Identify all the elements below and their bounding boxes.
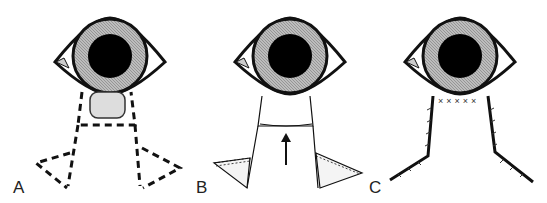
left-triangle bbox=[36, 153, 70, 188]
panel-label-c: C bbox=[369, 178, 381, 198]
arrow-up-icon bbox=[281, 133, 291, 165]
lid-sutures: ××××× bbox=[438, 96, 479, 106]
right-triangle bbox=[142, 148, 180, 188]
flap-left bbox=[247, 126, 318, 188]
panel-a bbox=[36, 18, 180, 188]
defect-outline bbox=[258, 96, 313, 126]
panel-b bbox=[214, 18, 362, 188]
panel-c: ××××× bbox=[390, 18, 533, 182]
suture-ticks bbox=[398, 108, 523, 177]
figure-canvas: ××××× bbox=[0, 0, 547, 203]
panel-label-a: A bbox=[13, 178, 24, 198]
panel-label-b: B bbox=[196, 178, 207, 198]
lesion bbox=[90, 92, 125, 118]
burow-right bbox=[316, 153, 362, 188]
